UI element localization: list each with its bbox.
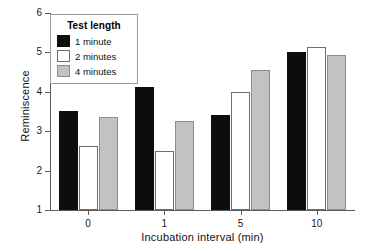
legend-label: 2 minutes: [75, 51, 116, 62]
x-tick-label: 0: [68, 218, 108, 229]
bar-group: [279, 13, 355, 210]
chart-figure: 123456 Reminiscence 01510 Incubation int…: [0, 0, 368, 250]
y-axis-title: Reminiscence: [19, 36, 31, 176]
bar-group: [203, 13, 279, 210]
x-axis-title: Incubation interval (min): [50, 231, 355, 243]
x-tick-label: 1: [144, 218, 184, 229]
bar: [175, 121, 194, 210]
y-tick-label: 1: [18, 205, 42, 215]
legend-title: Test length: [57, 20, 131, 31]
bar: [155, 151, 174, 210]
x-tick: [88, 210, 89, 215]
legend-box: Test length 1 minute 2 minutes 4 minutes: [50, 14, 138, 84]
bar: [59, 111, 78, 210]
legend-label: 1 minute: [75, 36, 111, 47]
legend-item-4-minutes: 4 minutes: [57, 65, 131, 77]
bar: [327, 55, 346, 210]
x-tick: [241, 210, 242, 215]
bar: [307, 47, 326, 211]
x-tick-label: 10: [297, 218, 337, 229]
legend-swatch-icon-gray: [57, 65, 70, 77]
bar: [251, 70, 270, 210]
legend-swatch-icon-white: [57, 50, 70, 62]
bar: [211, 115, 230, 210]
bar: [135, 87, 154, 210]
legend-swatch-icon-black: [57, 35, 70, 47]
bar: [287, 52, 306, 210]
x-tick: [317, 210, 318, 215]
legend-item-1-minute: 1 minute: [57, 35, 131, 47]
legend-label: 4 minutes: [75, 66, 116, 77]
bar: [231, 92, 250, 210]
y-tick-label: 6: [18, 8, 42, 18]
legend-item-2-minutes: 2 minutes: [57, 50, 131, 62]
x-axis-line: [50, 210, 355, 211]
x-tick-label: 5: [221, 218, 261, 229]
bar: [99, 117, 118, 210]
x-tick: [164, 210, 165, 215]
bar: [79, 146, 98, 210]
